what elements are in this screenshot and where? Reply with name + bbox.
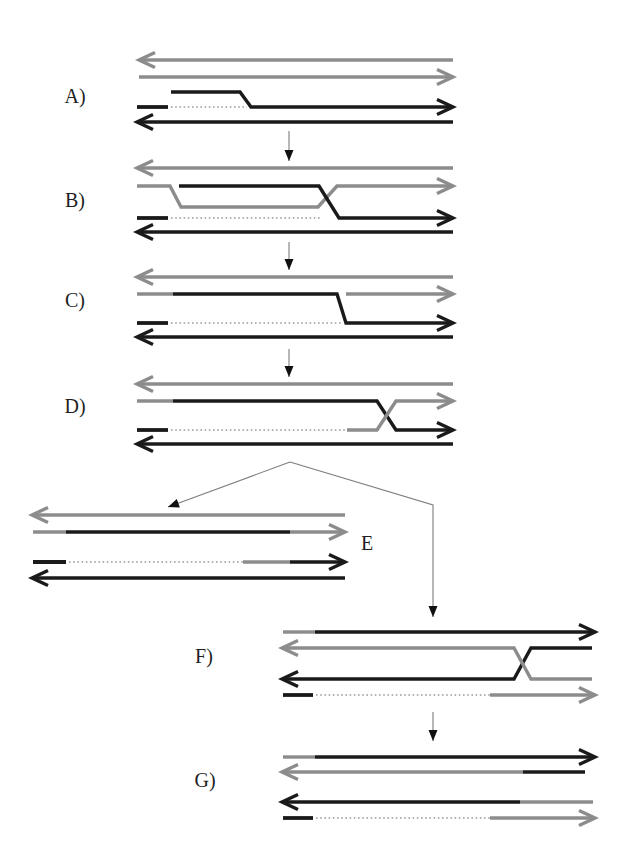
panel-F [282,625,595,703]
step-arrow-b-to-c [285,242,294,270]
panel-label-C: C) [65,289,85,312]
b-black-invading-strand [179,186,453,218]
panel-label-A: A) [64,85,85,108]
figure-canvas: A)B)C)D)EF)G) [0,0,630,867]
branch-arrow-d-to-e-arrowhead-icon [168,499,180,507]
panel-label-G: G) [194,769,215,792]
panel-label-D: D) [64,395,85,418]
a-invading-black-strand [171,92,453,107]
panel-label-B: B) [65,189,85,212]
panel-label-F: F) [195,645,213,668]
d-black-crossover-strand [173,401,453,430]
b-gray-displaced-loop [137,186,453,207]
branch-arrow-d-to-e [168,462,290,507]
step-arrow-a-to-b-arrowhead-icon [285,150,294,161]
branch-arrow-d-to-f-arrowhead-icon [429,606,438,617]
dna-recombination-diagram: A)B)C)D)EF)G) [0,0,630,867]
panel-label-E: E [361,532,373,554]
panel-B [137,161,453,240]
panel-C [137,270,453,345]
step-arrow-c-to-d [285,349,294,377]
panel-D [137,377,453,452]
branch-arrow-d-to-e-line [168,462,290,507]
d-gray-crossover-strand [347,401,453,430]
panel-G [282,750,595,826]
step-arrow-a-to-b [285,131,294,161]
step-arrow-b-to-c-arrowhead-icon [285,259,294,270]
c-black-extended-strand [173,294,453,323]
panel-E [32,508,345,586]
f-black-crossover-strand [282,648,592,679]
panel-A [137,53,453,130]
step-arrow-c-to-d-arrowhead-icon [285,366,294,377]
f-gray-crossover-strand [282,648,592,679]
step-arrow-f-to-g [429,712,438,741]
step-arrow-f-to-g-arrowhead-icon [429,730,438,741]
